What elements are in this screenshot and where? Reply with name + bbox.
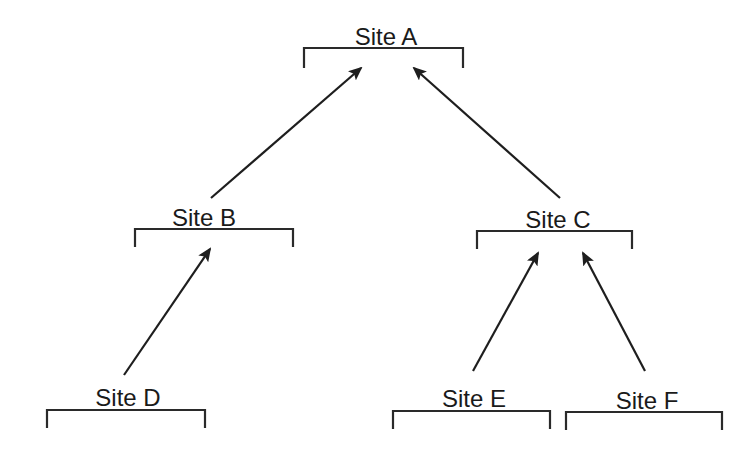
arrow-e-to-c [473,253,538,371]
site-label: Site B [172,204,236,231]
arrow-d-to-b [124,249,210,375]
site-hierarchy-diagram: Site ASite BSite CSite DSite ESite F [0,0,755,452]
node-site-c: Site C [477,206,632,249]
site-label: Site F [616,387,679,414]
bracket-icon [477,231,632,249]
site-label: Site A [355,23,418,50]
node-site-d: Site D [47,384,205,428]
bracket-icon [135,229,293,247]
arrow-c-to-a [414,68,560,198]
site-label: Site D [95,384,160,411]
node-site-b: Site B [135,204,293,247]
node-site-a: Site A [304,23,463,68]
nodes-layer: Site ASite BSite CSite DSite ESite F [47,23,722,430]
node-site-e: Site E [393,385,550,429]
site-label: Site E [442,385,506,412]
bracket-icon [47,410,205,428]
bracket-icon [566,412,722,430]
node-site-f: Site F [566,387,722,430]
bracket-icon [304,48,463,68]
arrow-f-to-c [583,253,645,371]
site-label: Site C [525,206,590,233]
bracket-icon [393,411,550,429]
arrow-b-to-a [211,68,361,198]
